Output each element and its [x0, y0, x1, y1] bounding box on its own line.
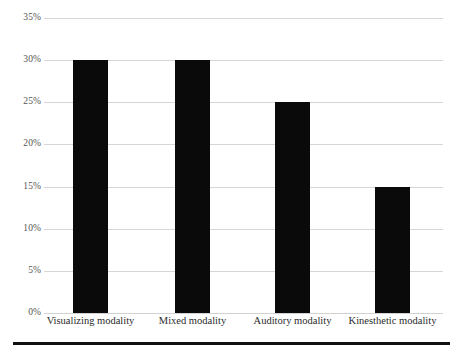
y-tick-label: 20% [1, 140, 41, 150]
y-tick-label: 5% [1, 266, 41, 276]
x-axis: Visualizing modalityMixed modalityAudito… [44, 315, 443, 335]
y-tick-label: 10% [1, 224, 41, 234]
y-tick-label: 25% [1, 98, 41, 108]
y-axis: 0%5%10%15%20%25%30%35% [0, 18, 41, 313]
gridline-0pct [44, 313, 443, 314]
bar [175, 60, 210, 313]
y-tick-label: 15% [1, 182, 41, 192]
y-tick-label: 0% [1, 308, 41, 318]
bar [275, 102, 310, 313]
bottom-horizontal-rule [13, 342, 450, 345]
gridline-35pct [44, 18, 443, 19]
bar-chart-figure: 0%5%10%15%20%25%30%35% Visualizing modal… [0, 0, 459, 355]
bar [375, 187, 410, 313]
bar [73, 60, 108, 313]
x-tick-label: Mixed modality [159, 315, 226, 328]
y-tick-label: 30% [1, 55, 41, 65]
x-tick-label: Auditory modality [254, 315, 332, 328]
plot-area [44, 18, 443, 313]
x-tick-label: Kinesthetic modality [349, 315, 437, 328]
y-tick-label: 35% [1, 13, 41, 23]
x-tick-label: Visualizing modality [47, 315, 135, 328]
